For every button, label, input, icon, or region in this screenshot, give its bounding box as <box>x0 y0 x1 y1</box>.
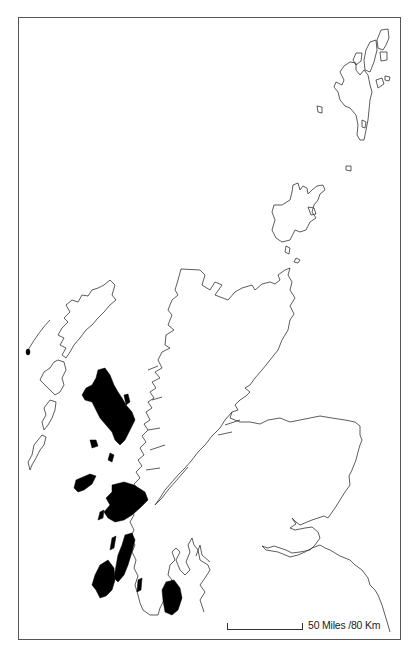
orkney-islands <box>272 183 325 263</box>
arran <box>162 580 182 615</box>
scale-bar: 50 Miles /80 Km <box>227 620 380 630</box>
jura <box>114 533 135 582</box>
shaded-islands <box>74 368 182 615</box>
scale-bar-label: 50 Miles /80 Km <box>308 620 380 630</box>
islay <box>92 560 115 598</box>
mainland-coastline <box>181 268 390 632</box>
skye <box>82 368 135 445</box>
west-coastline <box>130 269 181 615</box>
scale-bar-line <box>227 623 303 630</box>
mull <box>104 482 148 522</box>
great-glen <box>155 412 232 505</box>
scotland-map <box>0 0 419 659</box>
sea-lochs <box>146 366 240 470</box>
shetland-islands <box>317 29 390 171</box>
